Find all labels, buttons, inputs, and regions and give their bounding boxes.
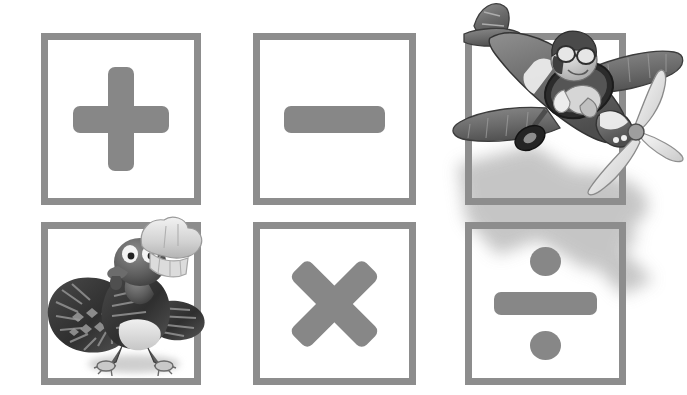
division-sign-icon <box>472 229 619 378</box>
minus-operator-cell[interactable] <box>253 33 416 205</box>
plus-operator-cell[interactable] <box>41 33 201 205</box>
plus-vertical-bar <box>108 67 134 171</box>
divide-bottom-dot <box>530 331 561 360</box>
divide-horizontal-bar <box>494 292 597 315</box>
divide-operator-cell[interactable] <box>465 222 626 385</box>
divide-top-dot <box>530 247 561 276</box>
operator-grid-canvas <box>0 0 687 395</box>
plus-sign-icon <box>48 40 194 198</box>
minus-sign-icon <box>260 40 409 198</box>
airplane-illustration-cell[interactable] <box>465 33 626 205</box>
turkey-illustration-cell[interactable] <box>41 222 201 385</box>
minus-horizontal-bar <box>284 106 385 134</box>
multiplication-sign-icon <box>260 229 409 378</box>
propeller-hub <box>628 124 644 140</box>
multiply-operator-cell[interactable] <box>253 222 416 385</box>
